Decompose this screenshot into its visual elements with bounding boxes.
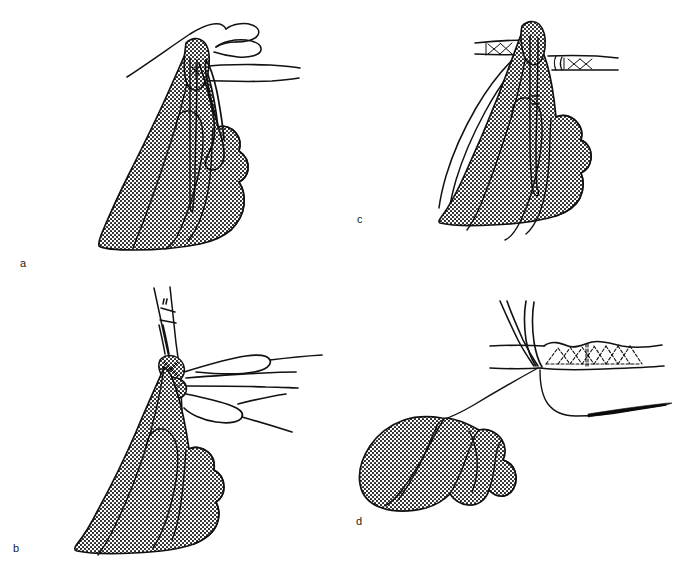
vessel-stump bbox=[521, 22, 545, 65]
panel-b-artwork bbox=[60, 280, 350, 563]
figure-canvas: a bbox=[0, 0, 681, 563]
panel-a-artwork bbox=[0, 0, 340, 280]
gloved-hand bbox=[99, 49, 248, 250]
forceps-tips bbox=[500, 301, 542, 367]
suture-thread bbox=[442, 368, 666, 420]
panel-c-artwork bbox=[340, 0, 681, 250]
suture-strands bbox=[184, 355, 322, 432]
panel-b-label: b bbox=[13, 543, 19, 554]
panel-b: b bbox=[60, 280, 350, 563]
panel-d: d bbox=[340, 300, 681, 563]
panel-d-artwork bbox=[340, 300, 681, 563]
panel-d-label: d bbox=[356, 516, 362, 527]
gloved-hand bbox=[359, 417, 516, 511]
panel-c-label: c bbox=[357, 214, 363, 225]
panel-c: c bbox=[340, 0, 681, 250]
panel-a: a bbox=[0, 0, 340, 280]
gloved-hand bbox=[75, 367, 224, 555]
surgical-needle bbox=[588, 403, 672, 417]
tube-collar bbox=[555, 56, 563, 70]
cross-stitch-sutures-right bbox=[564, 58, 592, 69]
panel-a-label: a bbox=[20, 258, 26, 269]
tube-graft-right bbox=[548, 56, 618, 70]
